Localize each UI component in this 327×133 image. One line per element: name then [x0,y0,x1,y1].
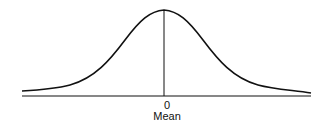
normal-curve [22,10,311,93]
mean-label: Mean [137,110,197,122]
